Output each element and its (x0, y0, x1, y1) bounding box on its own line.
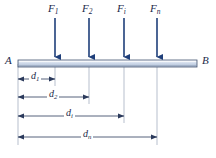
force-label-2: F2 (82, 3, 92, 16)
force-label-1: F1 (48, 3, 58, 16)
mechanics-beam-figure: F1 F2 Fi Fn A B d1 d2 di dn (0, 0, 216, 158)
force-label-n: Fn (150, 3, 160, 16)
dimension-label-di: di (64, 108, 75, 120)
beam-label-b: B (202, 55, 209, 66)
dimension-subscript-d1: 1 (36, 75, 39, 82)
dimension-subscript-di: i (71, 112, 73, 119)
dimension-label-d1: d1 (29, 71, 41, 83)
force-subscript-i: i (124, 7, 126, 16)
force-arrows (55, 18, 157, 57)
force-symbol-i: F (117, 2, 124, 14)
dimension-subscript-d2: 2 (54, 93, 57, 100)
force-symbol-1: F (48, 2, 55, 14)
force-symbol-2: F (82, 2, 89, 14)
beam-label-a: A (5, 55, 12, 66)
dimension-subscript-dn: n (88, 133, 91, 140)
beam-body (18, 60, 197, 67)
force-symbol-n: F (150, 2, 157, 14)
dimension-label-d2: d2 (47, 89, 59, 101)
dimension-label-dn: dn (81, 129, 93, 141)
force-subscript-n: n (157, 7, 161, 16)
force-subscript-1: 1 (55, 7, 59, 16)
force-subscript-2: 2 (89, 7, 93, 16)
force-label-i: Fi (117, 3, 126, 16)
